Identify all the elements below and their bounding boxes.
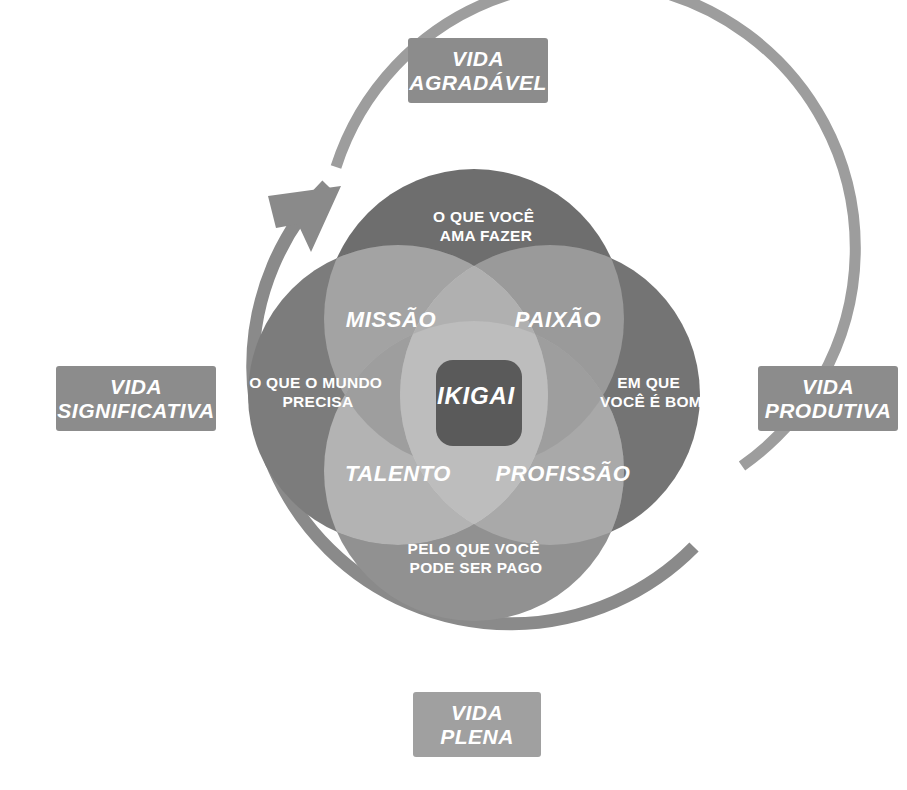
outer-label-produtiva-line1: VIDA xyxy=(802,375,854,399)
outer-label-vida-agradavel: VIDA AGRADÁVEL xyxy=(408,38,548,103)
intersection-label-talento: TALENTO xyxy=(345,461,451,486)
outer-label-plena-line2: PLENA xyxy=(440,725,514,749)
outer-label-vida-plena: VIDA PLENA xyxy=(413,692,541,757)
outer-label-produtiva-line2: PRODUTIVA xyxy=(765,399,892,423)
outer-label-agradavel-line1: VIDA xyxy=(452,47,504,71)
outer-label-significativa-line2: SIGNIFICATIVA xyxy=(57,399,214,423)
outer-label-plena-line1: VIDA xyxy=(451,701,503,725)
outer-label-significativa-line1: VIDA xyxy=(110,375,162,399)
outer-label-agradavel-line2: AGRADÁVEL xyxy=(409,71,547,95)
intersection-label-profissao: PROFISSÃO xyxy=(496,461,631,486)
ikigai-diagram-canvas: O QUE VOCÊ AMA FAZER EM QUE VOCÊ É BOM P… xyxy=(0,0,907,790)
core-label-ikigai: IKIGAI xyxy=(437,382,516,409)
outer-label-vida-produtiva: VIDA PRODUTIVA xyxy=(758,366,898,431)
outer-label-vida-significativa: VIDA SIGNIFICATIVA xyxy=(56,366,216,431)
intersection-label-paixao: PAIXÃO xyxy=(515,307,601,332)
intersection-label-missao: MISSÃO xyxy=(346,307,436,332)
